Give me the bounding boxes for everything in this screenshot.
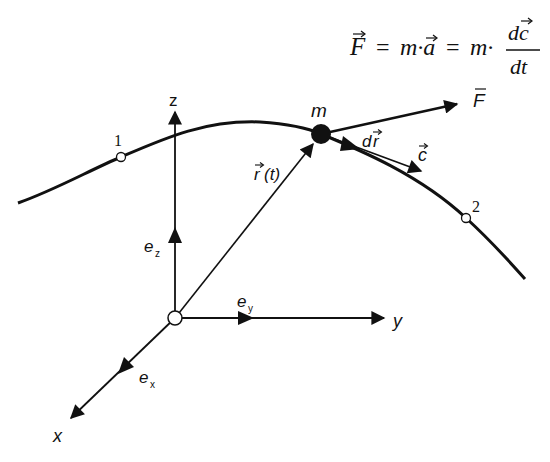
equals-sign: =	[376, 34, 390, 60]
ex-label: e x	[139, 368, 155, 390]
svg-text:r: r	[254, 165, 261, 184]
position-vector	[179, 144, 313, 313]
fraction-denominator: dt	[510, 54, 528, 79]
z-axis-label: z	[169, 91, 178, 110]
fraction-numerator: dc	[508, 20, 529, 45]
x-axis-label: x	[52, 426, 63, 446]
newton-equation: F = m·a = m· dc dt	[349, 18, 540, 79]
svg-text:x: x	[150, 379, 155, 390]
displacement-label: d r	[362, 130, 382, 152]
point-1-label: 1	[114, 132, 122, 149]
displacement-arrowhead-icon	[340, 136, 360, 151]
point-1	[117, 153, 126, 162]
svg-text:e: e	[139, 368, 148, 387]
svg-text:e: e	[144, 237, 153, 256]
trajectory-diagram: F = m·a = m· dc dt 1 2 m z y x	[0, 0, 550, 462]
y-axis-label: y	[391, 311, 403, 331]
mass-point	[311, 124, 331, 144]
position-label: r (t)	[254, 163, 280, 185]
ez-label: e z	[144, 237, 160, 259]
svg-text:z: z	[155, 248, 160, 259]
ey-label: e y	[237, 292, 253, 314]
ez-arrowhead-icon	[168, 227, 182, 243]
force-vector	[321, 104, 457, 134]
velocity-label: c	[418, 144, 428, 166]
equation-mass: m·	[470, 34, 493, 60]
svg-text:c: c	[418, 145, 427, 165]
svg-text:d: d	[362, 132, 372, 151]
point-2-label: 2	[472, 198, 480, 215]
svg-text:e: e	[237, 292, 246, 311]
force-label: F	[473, 89, 486, 111]
svg-text:y: y	[248, 303, 253, 314]
svg-text:(t): (t)	[264, 165, 280, 184]
equals-sign-2: =	[446, 34, 460, 60]
point-2	[462, 214, 471, 223]
trajectory-curve	[18, 122, 525, 279]
equation-force-symbol: F	[349, 33, 366, 60]
svg-text:F: F	[473, 90, 486, 111]
mass-label: m	[311, 100, 327, 121]
origin-point	[168, 311, 182, 325]
svg-text:r: r	[373, 132, 380, 151]
